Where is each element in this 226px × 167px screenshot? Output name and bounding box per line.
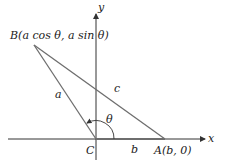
side-c xyxy=(34,45,165,139)
x-axis-label: x xyxy=(208,133,214,144)
side-a-label: a xyxy=(55,89,62,100)
triangle-diagram: y x B(a cos θ, a sin θ) C A(b, 0) a b c … xyxy=(0,0,226,167)
side-a xyxy=(34,45,96,139)
diagram-graphics xyxy=(0,0,226,167)
point-a-label: A(b, 0) xyxy=(154,145,192,156)
point-b-label: B(a cos θ, a sin θ) xyxy=(10,30,109,41)
side-c-label: c xyxy=(114,83,120,94)
point-c-label: C xyxy=(86,145,94,156)
angle-theta-label: θ xyxy=(106,114,113,125)
side-b-label: b xyxy=(131,144,138,155)
y-axis-label: y xyxy=(98,2,104,13)
